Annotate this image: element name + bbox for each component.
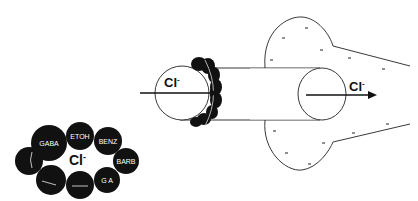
cluster-center-chloride-label: Cl- xyxy=(69,152,86,168)
chloride-label-exit: Cl- xyxy=(349,79,365,94)
svg-text:G A: G A xyxy=(101,177,113,184)
gaba-channel-diagram: Cl- Cl- GABA ETOH BENZ BARB G A Cl- xyxy=(0,0,418,201)
svg-text:BENZ: BENZ xyxy=(99,138,118,145)
receptor-cluster: GABA ETOH BENZ BARB G A Cl- xyxy=(15,122,139,199)
channel-exit-opening xyxy=(298,68,346,120)
svg-text:BARB: BARB xyxy=(116,158,135,165)
svg-text:GABA: GABA xyxy=(39,140,59,147)
svg-text:ETOH: ETOH xyxy=(70,133,89,140)
subunit-bottom-left xyxy=(36,165,66,195)
subunit-bottom-middle xyxy=(66,171,94,199)
